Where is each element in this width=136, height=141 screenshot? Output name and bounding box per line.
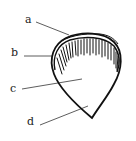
leader-line-a	[36, 22, 69, 35]
petal-outline	[52, 33, 121, 118]
label-b: b	[11, 47, 18, 58]
striations	[57, 39, 118, 74]
label-a: a	[25, 14, 32, 25]
petal-diagram	[0, 0, 136, 141]
label-d: d	[27, 116, 34, 127]
leader-line-c	[22, 79, 82, 89]
label-c: c	[10, 83, 16, 94]
